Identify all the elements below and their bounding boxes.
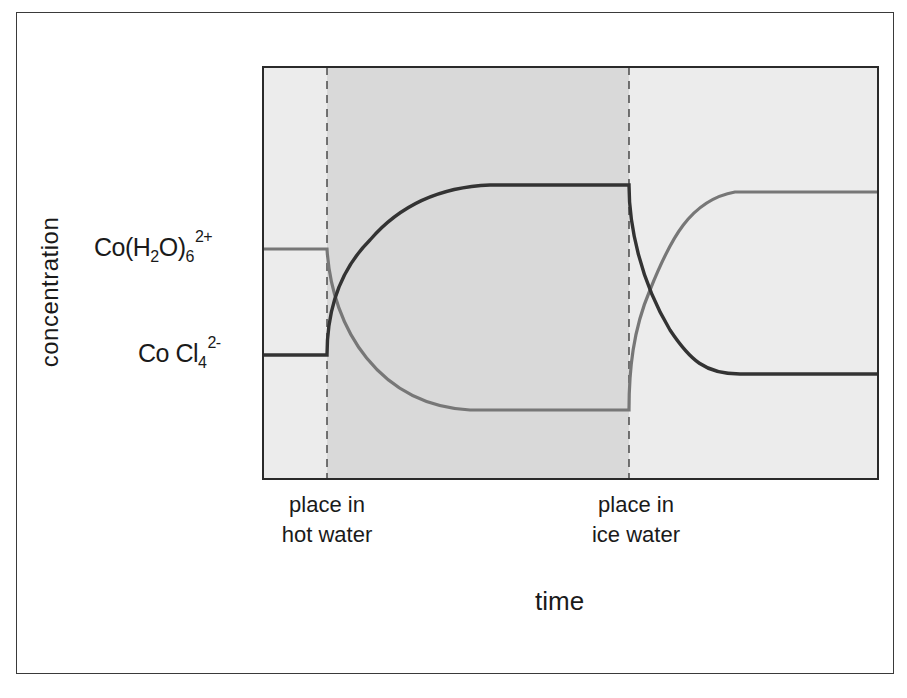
event-ice-line2: ice water [592, 520, 680, 550]
y-axis-label: concentration [36, 217, 64, 368]
species-label-cocl4: Co Cl42- [138, 334, 221, 372]
x-axis-label: time [535, 586, 584, 617]
chart-plot [0, 0, 907, 698]
event-hot-line2: hot water [282, 520, 373, 550]
event-label-hot-water: place in hot water [282, 490, 373, 550]
region-initial [263, 67, 327, 479]
event-ice-line1: place in [592, 490, 680, 520]
region-ice-water [629, 67, 878, 479]
region-hot-water [327, 67, 629, 479]
event-label-ice-water: place in ice water [592, 490, 680, 550]
event-hot-line1: place in [282, 490, 373, 520]
species-label-co-h2o6: Co(H2O)62+ [94, 228, 212, 266]
